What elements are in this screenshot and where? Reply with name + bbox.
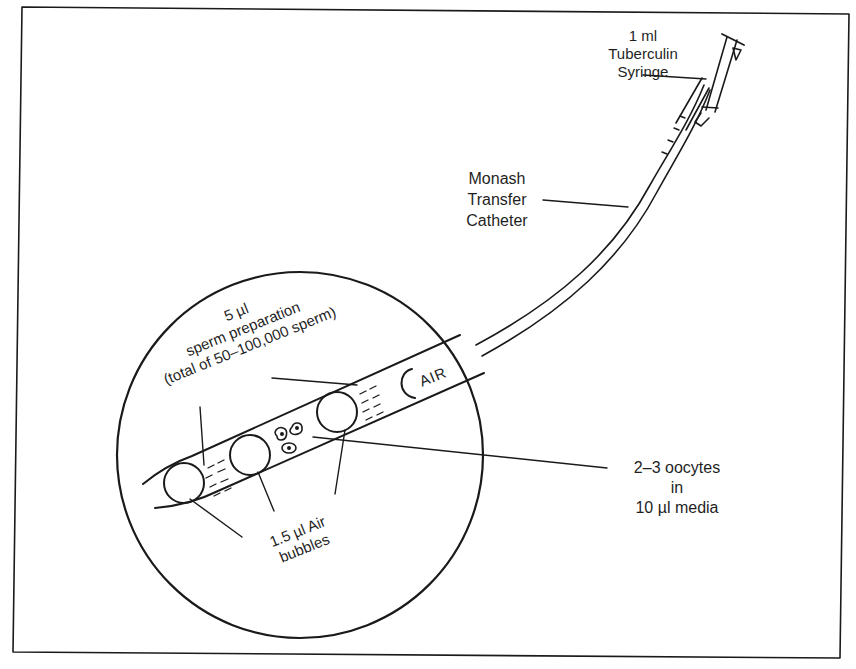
sperm-prep-leader-upper xyxy=(272,378,357,385)
syringe-label: 1 ml Tuberculin Syringe xyxy=(588,27,698,81)
air-bubble-leader-1 xyxy=(190,499,242,537)
syringe-label-line-3: Syringe xyxy=(588,63,698,81)
syringe-label-line-2: Tuberculin xyxy=(588,45,698,63)
transfer-catheter-diagram xyxy=(0,0,856,669)
oocytes-label-line-3: 10 µl media xyxy=(612,498,742,518)
catheter-label-line-1: Monash xyxy=(449,168,545,189)
catheter-leader-line xyxy=(543,200,628,207)
syringe-label-line-1: 1 ml xyxy=(588,27,698,45)
figure-frame xyxy=(13,7,849,658)
oocytes-label-line-2: in xyxy=(612,478,742,498)
oocyte-leader-line xyxy=(313,437,607,468)
catheter-label-line-2: Transfer xyxy=(449,189,545,210)
sperm-prep-leader-lower xyxy=(200,407,204,465)
oocytes-label-line-1: 2–3 oocytes xyxy=(612,458,742,478)
catheter-label: Monash Transfer Catheter xyxy=(449,168,545,231)
oocytes-label: 2–3 oocytes in 10 µl media xyxy=(612,458,742,518)
air-bubble-leader-2 xyxy=(258,472,274,511)
catheter-label-line-3: Catheter xyxy=(449,210,545,231)
